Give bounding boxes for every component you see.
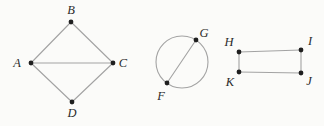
edge-FG [167,40,196,83]
vertex-label-B: B [67,3,75,17]
vertex-dot-K [237,70,242,75]
vertex-label-H: H [223,35,234,49]
edge-HI [239,50,301,52]
vertex-dot-J [299,71,304,76]
vertex-dot-G [194,38,199,43]
vertex-label-A: A [12,56,21,70]
vertex-dot-H [237,50,242,55]
vertex-dot-A [29,61,34,66]
vertex-dot-I [299,48,304,53]
vertex-dot-B [69,20,74,25]
edge-DC [72,63,113,102]
edge-BC [71,22,113,63]
vertex-label-K: K [225,75,235,89]
vertex-label-C: C [119,56,128,70]
circle-with-chord-FG-outline [156,36,208,88]
edge-AD [31,63,72,102]
vertex-dot-D [70,100,75,105]
vertex-dot-C [111,61,116,66]
vertex-label-J: J [306,74,313,88]
edge-AB [31,22,71,63]
vertex-label-F: F [156,89,165,103]
vertex-label-D: D [66,106,76,120]
vertex-label-G: G [199,26,208,40]
edge-KJ [239,72,301,73]
vertex-dot-F [165,81,170,86]
figure-svg: ABCDGFHIKJ [0,0,324,126]
geometry-figures-canvas: ABCDGFHIKJ [0,0,324,126]
vertex-label-I: I [307,34,313,48]
